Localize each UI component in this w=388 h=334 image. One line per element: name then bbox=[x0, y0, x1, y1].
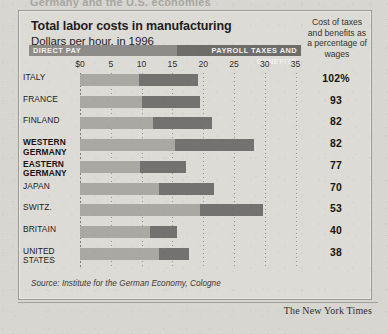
percentage-value: 40 bbox=[307, 225, 365, 236]
stacked-bar bbox=[80, 183, 214, 195]
bar-segment-payroll-taxes bbox=[140, 161, 186, 173]
row-label-britain: BRITAIN bbox=[23, 225, 79, 234]
row-label-switz: SWITZ. bbox=[23, 203, 79, 212]
chart-row: BRITAIN40 bbox=[19, 225, 371, 247]
percentage-value: 82 bbox=[307, 138, 365, 149]
chart-legend: DIRECT PAY PAYROLL TAXES AND BENEFITS bbox=[29, 45, 301, 56]
bar-segment-payroll-taxes bbox=[139, 74, 199, 86]
row-label-france: FRANCE bbox=[23, 95, 79, 104]
percentage-value: 53 bbox=[307, 203, 365, 214]
percentage-value: 102% bbox=[307, 73, 365, 84]
percentage-value: 82 bbox=[307, 116, 365, 127]
chart-row: WESTERNGERMANY82 bbox=[19, 138, 371, 160]
x-axis: $05101520253035 bbox=[19, 59, 371, 72]
chart-row: UNITEDSTATES38 bbox=[19, 247, 371, 269]
percentage-value: 70 bbox=[307, 182, 365, 193]
bar-segment-direct-pay bbox=[80, 248, 159, 260]
row-label-eastern-germany: EASTERNGERMANY bbox=[23, 160, 79, 179]
row-label-united-states: UNITEDSTATES bbox=[23, 247, 79, 266]
bar-segment-payroll-taxes bbox=[159, 183, 214, 195]
x-axis-tick: 30 bbox=[260, 59, 270, 69]
bar-segment-payroll-taxes bbox=[159, 248, 189, 260]
bar-segment-direct-pay bbox=[80, 96, 142, 108]
bar-segment-payroll-taxes bbox=[142, 96, 200, 108]
clipped-headline-above: Germany and the U.S. economies bbox=[30, 0, 250, 9]
bar-segment-payroll-taxes bbox=[175, 139, 253, 151]
stacked-bar bbox=[80, 74, 198, 86]
chart-title: Total labor costs in manufacturing bbox=[31, 19, 232, 33]
chart-row: FINLAND82 bbox=[19, 116, 371, 138]
publication-credit: The New York Times bbox=[284, 305, 372, 316]
stacked-bar bbox=[80, 117, 212, 129]
percentage-value: 38 bbox=[307, 247, 365, 258]
row-label-italy: ITALY bbox=[23, 73, 79, 82]
percentage-value: 77 bbox=[307, 160, 365, 171]
stacked-bar bbox=[80, 139, 254, 151]
stacked-bar bbox=[80, 248, 189, 260]
bar-segment-payroll-taxes bbox=[200, 204, 263, 216]
chart-row: FRANCE93 bbox=[19, 95, 371, 117]
bar-segment-direct-pay bbox=[80, 226, 150, 238]
bar-segment-direct-pay bbox=[80, 161, 140, 173]
chart-panel: Total labor costs in manufacturing Dolla… bbox=[18, 10, 372, 300]
bar-segment-direct-pay bbox=[80, 139, 175, 151]
legend-direct-pay: DIRECT PAY bbox=[29, 45, 177, 56]
plot-area: ITALY102%FRANCE93FINLAND82WESTERNGERMANY… bbox=[19, 73, 371, 273]
x-axis-tick: 15 bbox=[168, 59, 178, 69]
sidenote-column-header: Cost of taxes and benefits as a percenta… bbox=[305, 17, 369, 59]
x-axis-tick: $0 bbox=[75, 59, 85, 69]
row-label-finland: FINLAND bbox=[23, 116, 79, 125]
bar-segment-direct-pay bbox=[80, 117, 153, 129]
stacked-bar bbox=[80, 96, 200, 108]
chart-row: SWITZ.53 bbox=[19, 203, 371, 225]
divider bbox=[18, 302, 378, 303]
bar-segment-payroll-taxes bbox=[150, 226, 178, 238]
bar-segment-direct-pay bbox=[80, 74, 139, 86]
stacked-bar bbox=[80, 226, 177, 238]
x-axis-tick: 10 bbox=[137, 59, 147, 69]
x-axis-tick: 5 bbox=[108, 59, 113, 69]
x-axis-tick: 25 bbox=[229, 59, 239, 69]
x-axis-tick: 35 bbox=[291, 59, 301, 69]
bar-segment-direct-pay bbox=[80, 204, 200, 216]
row-label-japan: JAPAN bbox=[23, 182, 79, 191]
chart-row: ITALY102% bbox=[19, 73, 371, 95]
row-label-western-germany: WESTERNGERMANY bbox=[23, 138, 79, 157]
percentage-value: 93 bbox=[307, 95, 365, 106]
chart-row: EASTERNGERMANY77 bbox=[19, 160, 371, 182]
chart-row: JAPAN70 bbox=[19, 182, 371, 204]
stacked-bar bbox=[80, 204, 263, 216]
bar-segment-direct-pay bbox=[80, 183, 159, 195]
bar-segment-payroll-taxes bbox=[153, 117, 213, 129]
newspaper-chart-clipping: Germany and the U.S. economies Total lab… bbox=[0, 0, 388, 334]
x-axis-tick: 20 bbox=[198, 59, 208, 69]
stacked-bar bbox=[80, 161, 186, 173]
source-note: Source: Institute for the German Economy… bbox=[31, 279, 221, 288]
legend-payroll-taxes: PAYROLL TAXES AND BENEFITS bbox=[177, 45, 301, 56]
